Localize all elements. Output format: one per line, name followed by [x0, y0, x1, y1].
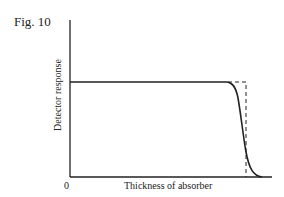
- measured-response-curve: [70, 82, 262, 177]
- x-axis-label: Thickness of absorber: [124, 180, 212, 191]
- y-axis-label: Detector response: [52, 59, 63, 131]
- chart-canvas: [0, 0, 284, 197]
- x-origin-tick: 0: [64, 180, 69, 191]
